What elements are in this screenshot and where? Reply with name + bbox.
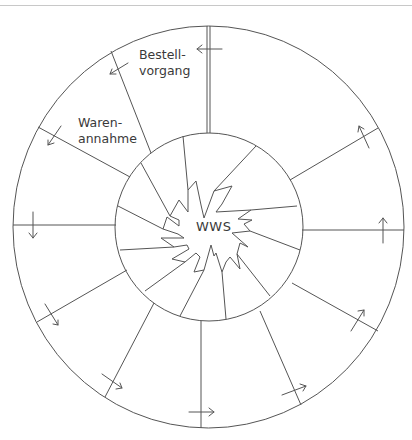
label-line: annahme <box>78 131 137 147</box>
segment-label-warenannahme: Waren- annahme <box>78 115 137 147</box>
label-line: Waren- <box>78 115 137 131</box>
arrow-up-right-icon <box>351 310 364 331</box>
arrow-down-left-icon <box>48 126 61 145</box>
arrow-right-icon <box>102 374 122 389</box>
label-line: vorgang <box>139 63 190 79</box>
arrow-up-icon <box>358 126 369 148</box>
segment-label-bestellvorgang: Bestell- vorgang <box>139 47 190 79</box>
arrow-down-right-icon <box>45 304 58 325</box>
center-label: WWS <box>196 219 231 234</box>
label-line: Bestell- <box>139 47 190 63</box>
